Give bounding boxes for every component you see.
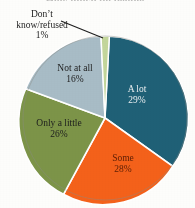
pie-slices bbox=[19, 36, 189, 205]
chart-page: How much do people... A lot 29% Some 28%… bbox=[0, 0, 195, 208]
leader-line-dont-know bbox=[61, 21, 103, 38]
pie-chart bbox=[0, 0, 195, 208]
